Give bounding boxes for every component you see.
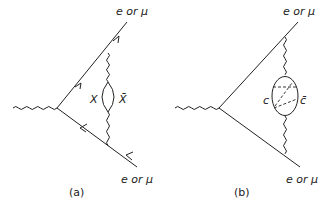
arrow-icon-a-upper-2 [113,36,119,43]
lower-photon-propagator-a [107,112,110,146]
arrow-icon-a-lower-2 [126,152,133,160]
top-label-a: e or μ [116,5,148,18]
upper-photon-propagator-b [284,37,287,75]
caption-b: (b) [234,186,250,199]
x-loop-left-a [102,82,108,112]
loop-left-label-b: c [263,94,269,107]
top-label-b: e or μ [283,5,315,18]
lower-lepton-line-b [219,108,300,167]
upper-photon-propagator-a [107,53,110,82]
bottom-label-b: e or μ [286,173,318,186]
loop-right-label-a: X̄ [118,93,127,106]
dashed-line-2-b [275,83,292,106]
arrow-icon-a-upper-1 [75,83,81,89]
loop-right-label-b: c̄ [300,94,307,107]
dashed-line-3-b [274,99,297,108]
bottom-label-a: e or μ [121,173,153,186]
lower-photon-propagator-b [284,116,287,154]
diagram-b: c c̄ e or μ e or μ (b) [175,5,318,199]
feynman-diagrams: X X̄ e or μ e or μ (a) c c̄ e or μ e or … [0,0,325,206]
x-loop-right-a [108,82,114,112]
upper-lepton-line-b [219,22,298,108]
incoming-photon-a [13,107,57,110]
caption-a: (a) [69,186,84,199]
c-loop-b [272,77,298,116]
incoming-photon-b [175,107,219,110]
loop-left-label-a: X [89,93,98,106]
lower-lepton-line-a [57,108,137,167]
diagram-a: X X̄ e or μ e or μ (a) [13,5,153,199]
